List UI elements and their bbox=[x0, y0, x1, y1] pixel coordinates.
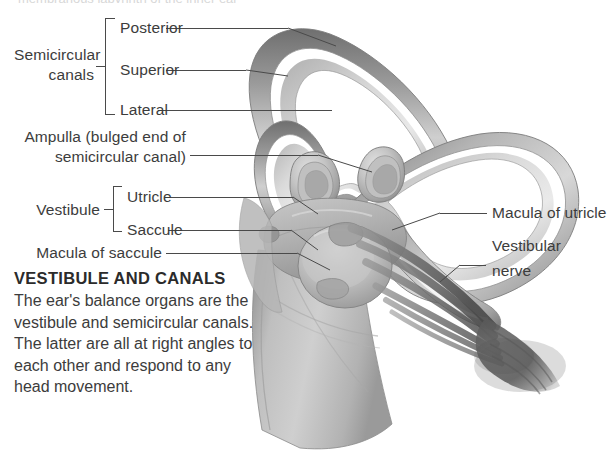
label-vestibule: Vestibule bbox=[20, 200, 100, 219]
label-lateral: Lateral bbox=[120, 100, 168, 119]
label-semicircular-canals-line1: Semicircular bbox=[14, 46, 100, 63]
label-saccule: Saccule bbox=[127, 220, 183, 239]
caption-body: The ear's balance organs are the vestibu… bbox=[14, 290, 254, 398]
label-macula-of-utricle: Macula of utricle bbox=[492, 203, 607, 222]
leader-utricle bbox=[165, 197, 293, 198]
label-semicircular-canals-line2: canals bbox=[49, 66, 94, 83]
label-semicircular-canals: Semicircular canals bbox=[14, 45, 94, 85]
leader-macula-saccule bbox=[166, 253, 297, 254]
bracket-stem-semicircular-canals bbox=[96, 66, 106, 67]
label-ampulla-line1: Ampulla (bulged end of bbox=[24, 128, 186, 145]
bracket-vestibule bbox=[113, 186, 122, 232]
leader-ampulla bbox=[190, 155, 318, 156]
bracket-semicircular-canals bbox=[105, 18, 115, 115]
label-superior: Superior bbox=[120, 60, 179, 79]
leader-lateral bbox=[158, 110, 332, 111]
leader-vestibular-nerve bbox=[460, 265, 486, 266]
top-clipped-text: membranous labyrinth of the inner ear bbox=[18, 0, 578, 3]
label-vestibular-nerve-line1: Vestibular bbox=[492, 237, 561, 254]
leader-saccule bbox=[168, 230, 291, 231]
label-macula-of-saccule: Macula of saccule bbox=[14, 243, 162, 262]
caption-block: VESTIBULE AND CANALS The ear's balance o… bbox=[14, 268, 254, 398]
label-utricle: Utricle bbox=[127, 187, 172, 206]
label-vestibular-nerve: Vestibular nerve bbox=[492, 233, 592, 283]
label-ampulla-line2: semicircular canal) bbox=[55, 148, 186, 165]
figure-root: membranous labyrinth of the inner ear bbox=[0, 0, 609, 469]
bracket-stem-vestibule bbox=[104, 209, 114, 210]
leader-macula-utricle bbox=[440, 213, 487, 214]
leader-posterior bbox=[166, 28, 288, 29]
label-vestibular-nerve-line2: nerve bbox=[492, 262, 531, 279]
caption-heading: VESTIBULE AND CANALS bbox=[14, 268, 254, 289]
label-posterior: Posterior bbox=[120, 18, 183, 37]
label-ampulla: Ampulla (bulged end of semicircular cana… bbox=[14, 127, 186, 167]
